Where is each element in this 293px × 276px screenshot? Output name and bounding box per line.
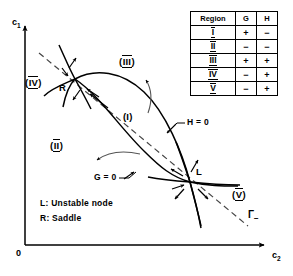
x-axis-label: c2 [272,251,281,262]
table-row: II − − [191,40,278,54]
region-roman: I [211,27,214,38]
region-roman: V [210,83,217,94]
region-roman: III [209,55,217,66]
legend-line-L: L: Unstable node [40,199,113,208]
table-cell-region: II [191,40,236,54]
table-cell-H: + [257,82,278,96]
gamma-minus-label: Γ− [248,210,259,223]
table-cell-G: + [236,26,257,40]
table-cell-region: V [191,82,236,96]
flow-arrow-lower-left [97,152,140,160]
table-cell-G: − [236,68,257,82]
table-body: I + − II − − III + + IV − + V − [191,26,278,96]
table-cell-H: + [257,54,278,68]
table-row: V − + [191,82,278,96]
legend-line-R: R: Saddle [40,214,81,223]
curve-label-H: H = 0 [187,118,209,127]
table-header-H: H [257,12,278,26]
y-axis-label: c1 [12,18,21,29]
table-cell-H: − [257,40,278,54]
separatrix-through-L [176,142,201,228]
leader-line-H [170,123,185,130]
table-cell-G: + [236,54,257,68]
table-header-region: Region [191,12,236,26]
table-header-G: G [236,12,257,26]
region-label-IV: (IV) [25,78,42,88]
region-sign-table: Region G H I + − II − − III + + IV [190,11,278,96]
table-cell-G: − [236,40,257,54]
table-cell-region: III [191,54,236,68]
point-label-L: L [196,167,202,177]
table-cell-G: − [236,82,257,96]
table-row: IV − + [191,68,278,82]
table-cell-region: IV [191,68,236,82]
table-row: I + − [191,26,278,40]
region-roman: IV [208,69,217,80]
region-label-V: (V) [232,190,246,200]
curve-label-G: G = 0 [94,173,117,182]
figure-canvas: c1 c2 0 (III) (I) (II) (IV) (V) R L H = … [0,0,293,276]
table-cell-region: I [191,26,236,40]
region-label-I: (I) [123,112,133,122]
origin-label: 0 [16,249,21,258]
separatrix-through-R [59,45,91,109]
table-row: III + + [191,54,278,68]
table-cell-H: − [257,26,278,40]
region-label-III: (III) [119,57,135,67]
table-cell-H: + [257,68,278,82]
table-header-row: Region G H [191,12,278,26]
region-label-II: (II) [50,141,63,151]
point-label-R: R [59,83,66,93]
region-roman: II [210,41,216,52]
